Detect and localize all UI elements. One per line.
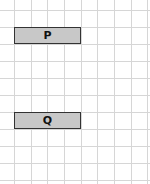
grid-line-horizontal [0,61,150,62]
box-q-label: Q [43,114,52,127]
box-p-label: P [43,29,51,42]
grid-line-horizontal [0,180,150,181]
grid-line-horizontal [0,95,150,96]
grid-line-horizontal [0,129,150,130]
grid-line-horizontal [0,146,150,147]
box-q: Q [14,112,81,129]
grid-line-horizontal [0,163,150,164]
grid-line-horizontal [0,10,150,11]
grid-line-horizontal [0,78,150,79]
grid-line-horizontal [0,44,150,45]
box-p: P [14,27,81,44]
